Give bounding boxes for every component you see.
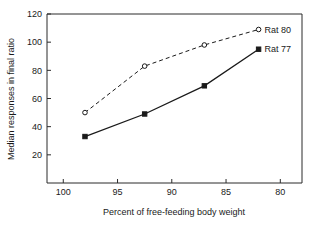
data-point-marker	[83, 110, 88, 115]
x-axis-ticks: 10095908580	[56, 179, 286, 197]
series-line-rat-80	[85, 29, 259, 112]
line-chart-svg: 20406080100120 10095908580 Rat 80Rat 77 …	[0, 0, 313, 225]
y-tick-label: 120	[27, 9, 42, 19]
x-axis-title: Percent of free-feeding body weight	[103, 207, 246, 217]
data-point-marker	[256, 27, 261, 32]
chart-figure: 20406080100120 10095908580 Rat 80Rat 77 …	[0, 0, 313, 225]
y-axis-title: Median responses in final ratio	[6, 38, 16, 160]
x-tick-label: 85	[221, 187, 231, 197]
y-tick-label: 20	[32, 150, 42, 160]
y-tick-label: 100	[27, 37, 42, 47]
data-point-marker	[83, 134, 87, 138]
data-point-marker	[142, 112, 146, 116]
series-label-rat-77: Rat 77	[265, 44, 292, 54]
data-point-marker	[202, 43, 207, 48]
y-tick-label: 60	[32, 94, 42, 104]
series-layer: Rat 80Rat 77	[83, 25, 291, 139]
data-point-marker	[202, 84, 206, 88]
data-point-marker	[142, 64, 147, 69]
x-tick-label: 80	[275, 187, 285, 197]
series-label-rat-80: Rat 80	[265, 25, 292, 35]
y-tick-label: 40	[32, 122, 42, 132]
series-line-rat-77	[85, 49, 259, 136]
x-tick-label: 100	[56, 187, 71, 197]
data-point-marker	[256, 47, 260, 51]
y-tick-label: 80	[32, 66, 42, 76]
x-tick-label: 95	[113, 187, 123, 197]
plot-frame	[47, 14, 302, 183]
x-tick-label: 90	[167, 187, 177, 197]
